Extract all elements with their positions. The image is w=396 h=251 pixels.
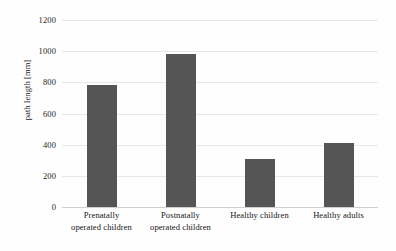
bar [245, 159, 275, 207]
y-tick-label: 1000 [4, 46, 56, 56]
x-tick-label-line1: Postnatally [161, 210, 200, 220]
bar [166, 54, 196, 207]
bar [87, 85, 117, 207]
y-tick-label: 0 [4, 202, 56, 212]
x-axis-tick-labels: Prenatallyoperated childrenPostnatallyop… [62, 210, 378, 250]
y-tick-label: 1200 [4, 15, 56, 25]
x-tick-label-line2: operated children [133, 222, 229, 234]
bar [324, 143, 354, 207]
x-tick-label-line1: Prenatally [84, 210, 119, 220]
plot-area [62, 20, 378, 207]
gridline [62, 20, 378, 21]
x-tick-label-line1: Healthy children [230, 210, 288, 220]
y-tick-label: 200 [4, 171, 56, 181]
y-tick-label: 400 [4, 140, 56, 150]
x-tick-label: Healthy adults [291, 210, 387, 222]
gridline [62, 51, 378, 52]
x-tick-label-line1: Healthy adults [313, 210, 364, 220]
y-axis-tick-labels: 020040060080010001200 [0, 20, 56, 207]
y-tick-label: 600 [4, 109, 56, 119]
gridline [62, 82, 378, 83]
gridline [62, 207, 378, 208]
y-tick-label: 800 [4, 77, 56, 87]
bar-chart: path length [mm] 020040060080010001200 P… [0, 0, 396, 251]
